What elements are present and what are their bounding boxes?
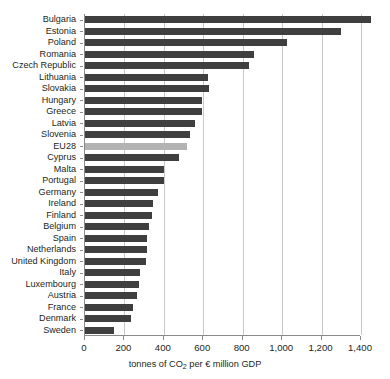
bar-greece[interactable] bbox=[85, 108, 202, 115]
bar-germany[interactable] bbox=[85, 189, 158, 196]
bar-latvia[interactable] bbox=[85, 120, 195, 127]
category-tick bbox=[80, 146, 83, 147]
bar-malta[interactable] bbox=[85, 166, 164, 173]
bar-ireland[interactable] bbox=[85, 200, 153, 207]
category-label-slovenia: Slovenia bbox=[41, 129, 76, 141]
bar-row[interactable] bbox=[85, 129, 190, 141]
bar-row[interactable] bbox=[85, 83, 209, 95]
plot-area bbox=[84, 14, 360, 336]
bar-row[interactable] bbox=[85, 221, 149, 233]
bar-belgium[interactable] bbox=[85, 223, 149, 230]
category-label-finland: Finland bbox=[46, 210, 76, 222]
category-tick bbox=[80, 250, 83, 251]
bar-row[interactable] bbox=[85, 325, 114, 337]
value-tick bbox=[242, 336, 243, 340]
bar-row[interactable] bbox=[85, 267, 140, 279]
category-tick bbox=[80, 261, 83, 262]
bar-united-kingdom[interactable] bbox=[85, 258, 146, 265]
bar-row[interactable] bbox=[85, 26, 341, 38]
bar-netherlands[interactable] bbox=[85, 246, 147, 253]
bar-eu28[interactable] bbox=[85, 143, 187, 150]
bar-romania[interactable] bbox=[85, 51, 254, 58]
value-tick bbox=[281, 336, 282, 340]
bar-row[interactable] bbox=[85, 302, 133, 314]
category-label-poland: Poland bbox=[48, 37, 76, 49]
bar-row[interactable] bbox=[85, 244, 147, 256]
bar-cyprus[interactable] bbox=[85, 154, 179, 161]
bar-slovenia[interactable] bbox=[85, 131, 190, 138]
bar-poland[interactable] bbox=[85, 39, 287, 46]
bar-row[interactable] bbox=[85, 37, 287, 49]
bar-bulgaria[interactable] bbox=[85, 16, 371, 23]
bar-slovakia[interactable] bbox=[85, 85, 209, 92]
value-tick-label: 1,000 bbox=[269, 341, 293, 354]
bar-row[interactable] bbox=[85, 279, 139, 291]
category-tick bbox=[80, 273, 83, 274]
category-label-latvia: Latvia bbox=[52, 118, 76, 130]
category-tick bbox=[80, 169, 83, 170]
category-tick bbox=[80, 112, 83, 113]
category-tick bbox=[80, 158, 83, 159]
bar-row[interactable] bbox=[85, 233, 147, 245]
bar-row[interactable] bbox=[85, 152, 179, 164]
bar-row[interactable] bbox=[85, 60, 249, 72]
bar-italy[interactable] bbox=[85, 269, 140, 276]
bar-row[interactable] bbox=[85, 49, 254, 61]
category-tick bbox=[80, 227, 83, 228]
value-tick bbox=[123, 336, 124, 340]
value-axis-labels: 02004006008001,0001,2001,400 bbox=[0, 341, 390, 355]
category-tick bbox=[80, 89, 83, 90]
category-tick bbox=[80, 77, 83, 78]
value-tick-label: 1,200 bbox=[309, 341, 333, 354]
bar-row[interactable] bbox=[85, 198, 153, 210]
bar-hungary[interactable] bbox=[85, 97, 202, 104]
category-label-ireland: Ireland bbox=[48, 198, 76, 210]
bar-czech-republic[interactable] bbox=[85, 62, 249, 69]
category-label-bulgaria: Bulgaria bbox=[43, 14, 76, 26]
bar-row[interactable] bbox=[85, 175, 164, 187]
bar-row[interactable] bbox=[85, 187, 158, 199]
bar-lithuania[interactable] bbox=[85, 74, 208, 81]
bar-austria[interactable] bbox=[85, 292, 137, 299]
category-tick bbox=[80, 181, 83, 182]
bar-row[interactable] bbox=[85, 164, 164, 176]
bar-row[interactable] bbox=[85, 141, 187, 153]
category-label-estonia: Estonia bbox=[46, 26, 76, 38]
value-tick-label: 600 bbox=[194, 341, 210, 354]
category-tick bbox=[80, 204, 83, 205]
bar-row[interactable] bbox=[85, 313, 131, 325]
bar-row[interactable] bbox=[85, 72, 208, 84]
category-tick bbox=[80, 307, 83, 308]
category-label-greece: Greece bbox=[46, 106, 76, 118]
bar-chart: BulgariaEstoniaPolandRomaniaCzech Republ… bbox=[0, 0, 390, 379]
bar-estonia[interactable] bbox=[85, 28, 341, 35]
bar-luxembourg[interactable] bbox=[85, 281, 139, 288]
category-tick bbox=[80, 54, 83, 55]
bar-row[interactable] bbox=[85, 106, 202, 118]
bar-row[interactable] bbox=[85, 118, 195, 130]
bar-row[interactable] bbox=[85, 210, 152, 222]
category-label-france: France bbox=[48, 302, 76, 314]
bar-denmark[interactable] bbox=[85, 315, 131, 322]
bar-sweden[interactable] bbox=[85, 327, 114, 334]
category-tick bbox=[80, 43, 83, 44]
category-tick bbox=[80, 296, 83, 297]
value-tick bbox=[360, 336, 361, 340]
x-axis-title-after: per € million GDP bbox=[187, 359, 262, 369]
bar-france[interactable] bbox=[85, 304, 133, 311]
value-tick bbox=[321, 336, 322, 340]
bar-row[interactable] bbox=[85, 256, 146, 268]
category-label-cyprus: Cyprus bbox=[47, 152, 76, 164]
category-label-eu28: EU28 bbox=[53, 141, 76, 153]
bar-row[interactable] bbox=[85, 14, 371, 26]
category-label-sweden: Sweden bbox=[43, 325, 76, 337]
value-tick bbox=[84, 336, 85, 340]
bar-row[interactable] bbox=[85, 290, 137, 302]
bar-spain[interactable] bbox=[85, 235, 147, 242]
bar-row[interactable] bbox=[85, 95, 202, 107]
bar-finland[interactable] bbox=[85, 212, 152, 219]
category-axis: BulgariaEstoniaPolandRomaniaCzech Republ… bbox=[0, 14, 80, 336]
category-label-slovakia: Slovakia bbox=[42, 83, 76, 95]
value-tick-label: 800 bbox=[234, 341, 250, 354]
bar-portugal[interactable] bbox=[85, 177, 164, 184]
